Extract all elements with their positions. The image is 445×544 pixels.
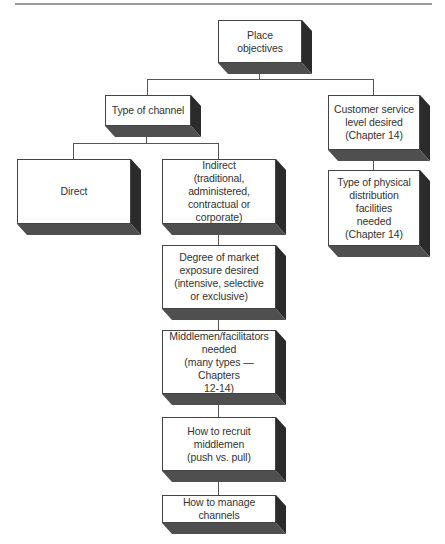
connector-to-type-of-channel (147, 79, 148, 95)
connector-level1-horizontal (147, 79, 374, 80)
node-middlemen-needed: Middlemen/facilitators needed (many type… (162, 330, 276, 394)
connector-level2-horizontal (73, 143, 219, 144)
node-label: Type of physical distribution facilities… (328, 170, 420, 246)
top-rule (15, 3, 432, 5)
node-label: Customer service level desired (Chapter … (328, 95, 420, 150)
node-indirect: Indirect (traditional, administered, con… (162, 159, 276, 224)
connector-to-customer-service (373, 79, 374, 95)
node-label: Type of channel (105, 95, 191, 126)
node-customer-service-level: Customer service level desired (Chapter … (328, 95, 420, 150)
node-label: How to recruit middlemen (push vs. pull) (162, 417, 276, 471)
node-label: How to manage channels (162, 495, 276, 523)
node-place-objectives: Place objectives (218, 20, 302, 63)
node-recruit-middlemen: How to recruit middlemen (push vs. pull) (162, 417, 276, 471)
node-direct: Direct (17, 159, 131, 224)
node-label: Middlemen/facilitators needed (many type… (162, 330, 276, 394)
node-label: Indirect (traditional, administered, con… (162, 159, 276, 224)
node-market-exposure: Degree of market exposure desired (inten… (162, 245, 276, 309)
node-manage-channels: How to manage channels (162, 495, 276, 523)
node-label: Degree of market exposure desired (inten… (162, 245, 276, 309)
connector-to-indirect (218, 143, 219, 159)
node-label: Place objectives (218, 20, 302, 63)
node-label: Direct (17, 159, 131, 224)
node-physical-distribution-facilities: Type of physical distribution facilities… (328, 170, 420, 246)
node-type-of-channel: Type of channel (105, 95, 191, 126)
connector-to-direct (73, 143, 74, 159)
